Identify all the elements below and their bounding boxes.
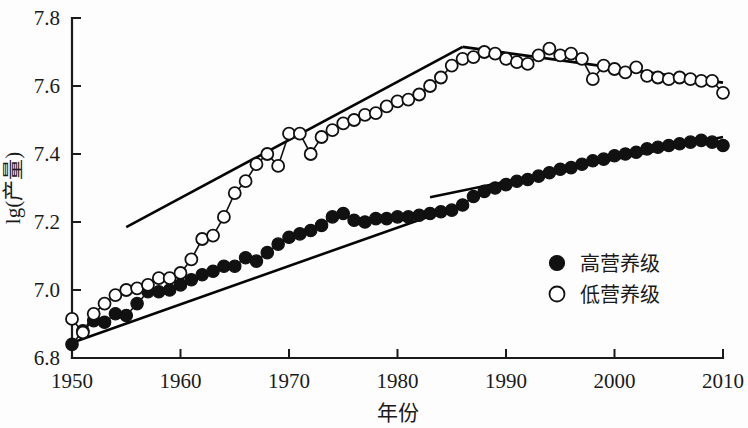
data-point [522,58,534,70]
data-point [98,316,110,328]
y-tick-label: 7.2 [34,210,60,234]
data-point [120,309,132,321]
data-point [543,43,555,55]
data-point [261,246,273,258]
chart-figure: 6.87.07.27.47.67.8 195019601970198019902… [0,0,748,428]
data-point [587,73,599,85]
legend-marker-filled-circle [550,256,565,271]
data-point [294,128,306,140]
x-tick-label: 1960 [160,369,202,393]
series-line-high-trophic [72,140,723,344]
data-point [717,139,729,151]
data-point [77,327,89,339]
data-point [229,260,241,272]
data-point [240,175,252,187]
trend-line-early [72,208,452,342]
data-point [337,207,349,219]
x-tick-label: 2000 [594,369,636,393]
data-point [533,49,545,61]
data-point [305,148,317,160]
y-axis-ticks [72,18,81,358]
data-point [229,187,241,199]
data-point [315,219,327,231]
x-tick-label: 2010 [702,369,744,393]
y-axis-tick-labels: 6.87.07.27.47.67.8 [34,6,61,370]
x-tick-label: 1950 [51,369,93,393]
data-point [326,124,338,136]
data-point [66,338,78,350]
data-point [370,107,382,119]
x-axis-title: 年份 [377,401,419,425]
data-point [250,255,262,267]
y-tick-label: 7.8 [34,6,60,30]
y-tick-label: 7.0 [34,278,60,302]
data-point [185,253,197,265]
data-point [446,60,458,72]
data-point [456,199,468,211]
legend-label-high-trophic: 高营养级 [580,253,660,275]
data-point [218,211,230,223]
y-tick-label: 6.8 [34,346,60,370]
chart-svg: 6.87.07.27.47.67.8 195019601970198019902… [0,0,748,428]
data-point [717,87,729,99]
x-tick-label: 1970 [268,369,310,393]
y-tick-label: 7.6 [34,74,60,98]
data-point [706,75,718,87]
x-axis-tick-labels: 1950196019701980199020002010 [51,369,744,393]
data-point [99,298,111,310]
y-tick-label: 7.4 [34,142,61,166]
x-tick-label: 1990 [485,369,527,393]
data-point [250,158,262,170]
legend-marker-open-circle [550,287,565,302]
data-point [272,238,284,250]
y-axis-title: lg(产量) [1,152,25,224]
data-point [207,230,219,242]
chart-legend: 高营养级 低营养级 [550,253,661,306]
x-tick-label: 1980 [377,369,419,393]
data-point [261,148,273,160]
x-axis-ticks [72,349,723,358]
data-point [413,89,425,101]
legend-label-low-trophic: 低营养级 [580,284,660,306]
data-point [88,308,100,320]
data-point [424,80,436,92]
data-point [576,53,588,65]
data-point [316,131,328,143]
data-point [131,297,143,309]
data-point [630,61,642,73]
data-point [435,72,447,84]
data-point [142,279,154,291]
data-point [66,313,78,325]
data-point [175,267,187,279]
data-point [272,160,284,172]
